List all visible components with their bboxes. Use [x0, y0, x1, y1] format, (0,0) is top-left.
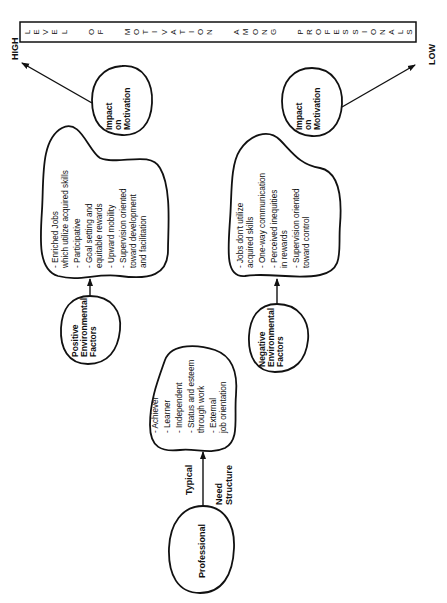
positive-item: toward development: [129, 194, 138, 268]
title-letter: L: [23, 29, 32, 34]
title-letter: N: [260, 29, 269, 35]
positive-item: - Participative: [73, 218, 82, 268]
title-letter: F: [96, 29, 105, 34]
title-letter: E: [32, 29, 41, 34]
impact-high-line-3: Motivation: [122, 88, 132, 131]
positive-item: and facilitation: [139, 215, 148, 268]
title-letter: A: [232, 29, 241, 35]
title-letter: M: [123, 28, 132, 35]
title-letter: E: [50, 29, 59, 34]
title-letter: L: [60, 29, 69, 34]
negative-factors-node: Negative Environmental Factors: [249, 304, 308, 372]
title-letter: O: [314, 29, 323, 35]
positive-item: - Upward mobility: [107, 204, 116, 268]
title-letter: A: [387, 29, 396, 35]
title-letter: I: [360, 31, 369, 33]
title-letter: O: [132, 29, 141, 35]
positive-conditions-node: - Enriched Jobs which utilize acquired s…: [41, 126, 169, 278]
negative-item: - Supervision oriented: [292, 188, 301, 268]
professional-label: Professional: [197, 524, 207, 578]
arrow-to-low: [342, 65, 415, 107]
positive-item: equitable rewards: [95, 203, 104, 268]
need-label: Need: [214, 483, 224, 505]
arrow-to-high: [22, 63, 92, 103]
title-letter: O: [251, 29, 260, 35]
positive-item: which utilize acquired skills: [61, 170, 70, 269]
title-letter: S: [341, 29, 350, 34]
positive-item: - Supervision oriented: [119, 188, 128, 268]
title-letter: G: [269, 29, 278, 35]
negative-item: in rewards: [280, 230, 289, 268]
title-letter: N: [378, 29, 387, 35]
title-letter: L: [396, 29, 405, 34]
negative-factors-line-3: Factors: [275, 336, 285, 367]
title-letter: P: [296, 29, 305, 34]
need-item: - External: [209, 398, 218, 433]
title-letter: O: [196, 29, 205, 35]
negative-conditions-node: - Jobs don't utilize acquired skills - O…: [229, 134, 341, 277]
title-letter: A: [169, 29, 178, 35]
title-letter: V: [41, 29, 50, 35]
need-item: - Learner: [163, 400, 172, 433]
need-item: - Independent: [175, 382, 184, 433]
motivation-diagram: LEVELOFMOTIVATIONAMONGPROFESSIONALS HIGH…: [0, 0, 447, 603]
positive-item: - Enriched Jobs: [51, 211, 60, 268]
title-letter: O: [87, 29, 96, 35]
title-letter: V: [160, 29, 169, 35]
title-box: LEVELOFMOTIVATIONAMONGPROFESSIONALS: [20, 22, 416, 42]
high-label: HIGH: [10, 38, 20, 61]
low-label: LOW: [427, 44, 437, 65]
need-item: - Status and esteem: [187, 360, 196, 433]
need-item: - Achiever: [151, 396, 160, 433]
positive-factors-line-3: Factors: [88, 326, 98, 357]
title-letter: M: [241, 28, 250, 35]
structure-label: Structure: [224, 465, 234, 505]
title-letter: I: [150, 31, 159, 33]
title-letter: I: [187, 31, 196, 33]
title-letter: F: [323, 29, 332, 34]
title-letter: R: [305, 29, 314, 35]
positive-factors-node: Positive Environmental Factors: [61, 296, 120, 364]
title-letter: S: [351, 29, 360, 34]
title-letter: T: [141, 29, 150, 34]
negative-item: - Jobs don't utilize: [236, 202, 245, 268]
title-letter: T: [178, 29, 187, 34]
negative-item: acquired skills: [246, 217, 255, 268]
title-letter: O: [369, 29, 378, 35]
impact-low-line-3: Motivation: [312, 88, 322, 131]
positive-item: - Goal setting and: [85, 203, 94, 268]
negative-item: - Perceived inequities: [270, 190, 279, 268]
impact-low-node: Impact on Motivation: [282, 68, 342, 136]
impact-high-node: Impact on Motivation: [92, 66, 152, 135]
negative-item: - One-way communication: [258, 172, 267, 268]
title-letter: N: [205, 29, 214, 35]
need-structure-node: - Achiever - Learner - Independent - Sta…: [150, 346, 236, 451]
need-item: job orientation: [219, 381, 228, 434]
title-letter: E: [332, 29, 341, 34]
typical-label: Typical: [184, 465, 194, 495]
title-letter: S: [405, 29, 414, 34]
need-item: through work: [197, 385, 206, 433]
professional-node: Professional: [169, 506, 234, 593]
negative-item: toward control: [302, 216, 311, 268]
